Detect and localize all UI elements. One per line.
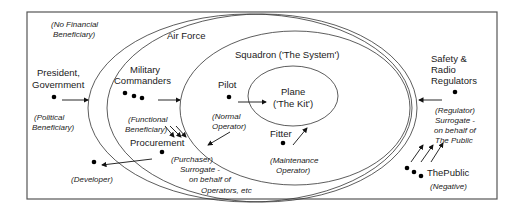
svg-text:Surrogate -: Surrogate -	[435, 116, 475, 125]
developer-label: (Developer)	[71, 175, 113, 184]
svg-text:('The Kit'): ('The Kit')	[273, 98, 313, 109]
svg-text:Beneficiary): Beneficiary)	[32, 123, 75, 132]
plane-label: Plane	[281, 86, 305, 97]
squadron-label: Squadron ('The System')	[235, 49, 339, 60]
fitter-to-plane-arrow	[293, 128, 307, 145]
air-force-label: Air Force	[167, 30, 206, 41]
regulator-role-label: (Regulator)	[435, 106, 475, 115]
regulator-actor-icon	[451, 90, 459, 104]
purchaser-label: (Purchaser)	[171, 155, 213, 164]
svg-text:Government: Government	[32, 79, 85, 90]
public-arrow-1	[411, 145, 423, 162]
public-actor-icon	[403, 166, 411, 180]
maintenance-operator-label: (Maintenance	[270, 156, 319, 165]
fitter-actor-icon	[279, 141, 287, 155]
svg-text:Operator): Operator)	[212, 122, 247, 131]
svg-text:Operators, etc: Operators, etc	[201, 186, 252, 195]
public-label: ThePublic	[427, 167, 469, 178]
svg-text:The Public: The Public	[435, 136, 473, 145]
svg-text:Beneficiary): Beneficiary)	[53, 30, 96, 39]
stakeholder-diagram: (No Financial Beneficiary) Air Force Squ…	[0, 0, 523, 211]
svg-text:Surrogate -: Surrogate -	[180, 165, 220, 174]
procurement-actor-icon	[158, 150, 166, 164]
svg-text:Regulators: Regulators	[431, 75, 477, 86]
public-arrow-2	[421, 145, 433, 162]
regulators-label: Safety &	[431, 53, 468, 64]
normal-operator-label: (Normal	[212, 112, 241, 121]
pilot-actor-icon	[225, 95, 233, 109]
fitter-label: Fitter	[270, 128, 292, 139]
svg-text:Beneficiary): Beneficiary)	[125, 125, 168, 134]
no-financial-beneficiary-label: (No Financial	[51, 20, 98, 29]
air-force-ellipse	[88, 14, 412, 202]
procurement-to-developer-arrow	[102, 159, 152, 165]
svg-text:Operator): Operator)	[276, 166, 311, 175]
developer-actor-icon	[90, 160, 98, 174]
svg-text:on behalf of: on behalf of	[434, 126, 477, 135]
procurement-label: Procurement	[130, 137, 185, 148]
commander-actor-icon	[121, 91, 129, 105]
functional-beneficiary-label: (Functional	[128, 115, 168, 124]
president-label: President,	[37, 67, 80, 78]
negative-label: (Negative)	[430, 182, 467, 191]
svg-text:on behalf of: on behalf of	[189, 175, 232, 184]
svg-text:Radio: Radio	[431, 64, 456, 75]
regulatory-boundary-ellipse	[107, 14, 417, 202]
pilot-to-procurement-arrow	[208, 132, 230, 145]
political-beneficiary-label: (Political	[34, 113, 64, 122]
president-actor-icon	[50, 95, 58, 109]
military-commanders-label: Military	[130, 64, 160, 75]
pilot-label: Pilot	[218, 79, 237, 90]
svg-text:Commanders: Commanders	[114, 75, 171, 86]
